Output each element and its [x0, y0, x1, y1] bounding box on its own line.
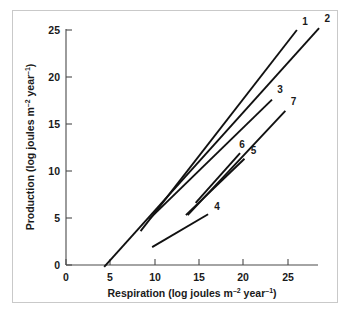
- series-line-2: [104, 28, 319, 267]
- x-tick-label-5: 5: [107, 271, 113, 283]
- y-tick-labels: 25 20 15 10 5 0: [48, 24, 60, 271]
- x-axis-title-sup2: –1: [265, 287, 273, 294]
- y-ticks: [66, 30, 72, 265]
- series-lines: [104, 28, 319, 267]
- x-axis-title-main: Respiration (log joules m: [107, 287, 232, 299]
- y-tick-label-0: 0: [54, 259, 60, 271]
- series-label-3: 3: [277, 84, 283, 95]
- y-tick-label-15: 15: [48, 118, 60, 130]
- series-line-4: [152, 214, 208, 247]
- x-tick-label-25: 25: [282, 271, 294, 283]
- series-line-6: [196, 153, 240, 203]
- y-axis-title-main: Production (log joules m: [24, 107, 36, 230]
- series-label-5: 5: [251, 145, 257, 156]
- series-label-2: 2: [324, 13, 330, 24]
- y-axis-title-sup1: –2: [24, 99, 31, 107]
- figure-root: 25 20 15 10 5 0 0 5 10 15 20 25: [0, 0, 351, 317]
- x-axis-title-mid: year: [241, 287, 266, 299]
- x-ticks: [66, 259, 288, 265]
- y-tick-label-25: 25: [48, 24, 60, 36]
- x-tick-label-0: 0: [63, 271, 69, 283]
- series-label-7: 7: [291, 96, 297, 107]
- chart-canvas: 25 20 15 10 5 0 0 5 10 15 20 25: [0, 0, 351, 317]
- y-axis-title-mid: year: [24, 75, 36, 100]
- series-label-6: 6: [239, 139, 245, 150]
- y-axis-title-end: ): [24, 64, 36, 68]
- series-label-1: 1: [302, 16, 308, 27]
- x-axis-title-end: ): [273, 287, 277, 299]
- y-tick-label-5: 5: [54, 212, 60, 224]
- axes-group: [66, 29, 318, 265]
- x-tick-label-15: 15: [193, 271, 205, 283]
- y-tick-label-20: 20: [48, 71, 60, 83]
- series-line-3: [149, 100, 272, 219]
- x-tick-labels: 0 5 10 15 20 25: [63, 271, 294, 283]
- x-axis-title-sup1: –2: [233, 287, 241, 294]
- y-tick-label-10: 10: [48, 165, 60, 177]
- series-line-7: [188, 111, 286, 215]
- x-tick-label-20: 20: [237, 271, 249, 283]
- x-axis-title: Respiration (log joules m–2 year–1): [107, 287, 276, 299]
- series-label-4: 4: [214, 201, 220, 212]
- y-axis-title-sup2: –1: [24, 67, 31, 75]
- x-tick-label-10: 10: [149, 271, 161, 283]
- y-axis-title: Production (log joules m–2 year–1): [24, 64, 36, 231]
